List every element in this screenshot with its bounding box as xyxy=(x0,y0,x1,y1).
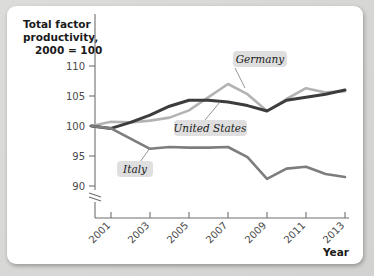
x-axis-title: Year xyxy=(322,246,350,258)
x-tick-label-2007: 2007 xyxy=(204,220,230,246)
x-axis: 2001 2003 2005 2007 2009 2011 2013 Year xyxy=(87,212,350,258)
axis-break-mark-2 xyxy=(89,197,101,201)
y-tick-label-90: 90 xyxy=(72,181,85,192)
series-line-germany xyxy=(92,84,346,126)
x-tick-label-2011: 2011 xyxy=(282,220,308,246)
x-tick-label-2003: 2003 xyxy=(126,220,152,246)
italy-leader-line xyxy=(140,148,150,162)
united-states-series-label: United States xyxy=(174,122,248,134)
y-tick-label-100: 100 xyxy=(66,121,85,132)
x-tick-label-2005: 2005 xyxy=(165,220,191,246)
chart-card: Total factor productivity, 2000 = 100 11… xyxy=(7,6,363,264)
axis-break-mark-1 xyxy=(89,193,101,197)
screenshot-root: Total factor productivity, 2000 = 100 11… xyxy=(0,0,374,276)
italy-series-label: Italy xyxy=(122,163,148,175)
y-tick-label-105: 105 xyxy=(66,91,85,102)
x-tick-label-2001: 2001 xyxy=(87,220,113,246)
y-tick-label-95: 95 xyxy=(72,151,85,162)
y-axis-title-line3: 2000 = 100 xyxy=(35,44,102,56)
germany-series-label: Germany xyxy=(236,53,286,65)
y-tick-label-110: 110 xyxy=(66,61,85,72)
germany-leader-line xyxy=(235,68,245,88)
annotation-united-states: United States xyxy=(174,102,248,136)
line-chart: Total factor productivity, 2000 = 100 11… xyxy=(7,6,363,264)
x-tick-label-2013: 2013 xyxy=(321,220,347,246)
y-axis-title-line1: Total factor xyxy=(23,18,91,30)
y-axis-title-group: Total factor productivity, 2000 = 100 xyxy=(23,18,102,56)
y-axis-title-line2: productivity, xyxy=(23,31,98,43)
annotation-germany: Germany xyxy=(233,51,287,88)
x-tick-label-2009: 2009 xyxy=(243,220,269,246)
united-states-leader-line xyxy=(205,102,220,120)
annotation-italy: Italy xyxy=(117,148,153,177)
